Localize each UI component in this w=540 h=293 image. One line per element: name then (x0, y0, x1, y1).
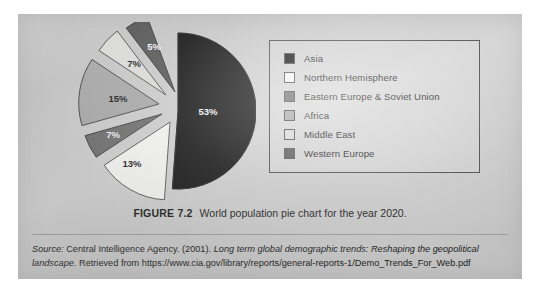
legend-label-western-europe: Western Europe (304, 148, 375, 159)
legend-swatch-africa (284, 110, 295, 121)
source-retrieved: Retrieved from https://www.cia.gov/libra… (76, 258, 470, 268)
legend-label-middle-east: Middle East (304, 129, 355, 140)
legend-item-western-europe: Western Europe (284, 144, 479, 163)
legend-item-eastern-europe: Eastern Europe & Soviet Union (284, 87, 479, 106)
source-agency: Central Intelligence Agency. (2001). (64, 244, 214, 254)
pie-chart-svg: 53% 13% 7% 15% 7% 5% (66, 22, 256, 200)
legend-label-africa: Africa (304, 110, 329, 121)
pie-label-eastern-europe: 7% (106, 129, 120, 140)
legend-item-northern-hemisphere: Northern Hemisphere (284, 68, 479, 87)
legend-item-asia: Asia (284, 49, 479, 68)
legend-swatch-western-europe (284, 148, 295, 159)
legend-label-asia: Asia (304, 53, 323, 64)
figure-caption-text: World population pie chart for the year … (200, 207, 407, 219)
legend-swatch-asia (284, 53, 295, 64)
scanned-page: 53% 13% 7% 15% 7% 5% Asia Northern Hemis… (18, 14, 522, 279)
figure-caption: FIGURE 7.2World population pie chart for… (18, 207, 522, 219)
figure-area: 53% 13% 7% 15% 7% 5% Asia Northern Hemis… (18, 14, 522, 216)
source-prefix: Source: (32, 244, 64, 254)
pie-label-middle-east: 7% (127, 58, 141, 69)
source-divider (32, 234, 508, 235)
pie-label-western-europe: 5% (147, 41, 161, 52)
chart-legend: Asia Northern Hemisphere Eastern Europe … (269, 40, 480, 173)
legend-swatch-middle-east (284, 129, 295, 140)
pie-label-asia: 53% (198, 106, 218, 117)
pie-label-africa: 15% (108, 93, 128, 104)
pie-chart: 53% 13% 7% 15% 7% 5% (66, 22, 256, 200)
legend-label-eastern-europe: Eastern Europe & Soviet Union (304, 91, 440, 102)
legend-swatch-eastern-europe (284, 91, 295, 102)
legend-swatch-northern-hemisphere (284, 72, 295, 83)
figure-number: FIGURE 7.2 (133, 207, 192, 219)
legend-label-northern-hemisphere: Northern Hemisphere (304, 72, 398, 83)
pie-label-northern-hemisphere: 13% (122, 158, 142, 169)
source-note: Source: Central Intelligence Agency. (20… (32, 242, 510, 270)
legend-item-middle-east: Middle East (284, 125, 479, 144)
legend-item-africa: Africa (284, 106, 479, 125)
